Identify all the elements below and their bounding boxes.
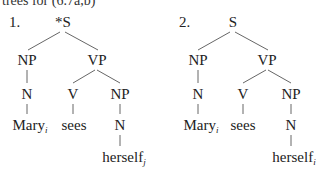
n-node: N [22,87,33,102]
v-node: V [68,87,79,102]
subject-index: i [45,125,48,135]
object-word: herselfi [272,150,315,170]
object-np-node: NP [281,87,300,102]
tree-number: 2. [179,15,190,30]
subject-index: i [216,125,219,135]
vp-node: VP [87,53,106,68]
root-node: S [229,15,237,30]
subject-text: Mary [183,117,216,133]
object-word: herselfj [102,150,145,170]
object-index: i [313,157,316,167]
subject-word: Maryi [183,118,218,138]
object-text: herself [272,149,313,165]
object-n-node: N [115,118,126,133]
v-node: V [238,87,249,102]
tree-number: 1. [9,15,20,30]
root-node: *S [55,15,71,30]
tree-edges [0,0,316,174]
object-text: herself [102,149,143,165]
subject-text: Mary [12,117,45,133]
subject-word: Maryi [12,118,47,138]
object-n-node: N [286,118,297,133]
np-node: NP [17,53,36,68]
object-np-node: NP [110,87,129,102]
verb-word: sees [231,118,256,133]
n-node: N [193,87,204,102]
vp-node: VP [257,53,276,68]
np-node: NP [188,53,207,68]
object-index: j [143,157,146,167]
verb-word: sees [62,118,87,133]
